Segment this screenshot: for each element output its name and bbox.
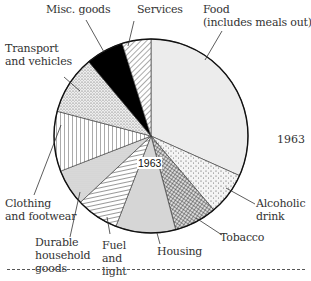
label-tobacco: Tobacco	[220, 231, 264, 244]
center-year-label: 1963	[137, 157, 162, 169]
dashed-divider	[7, 269, 305, 270]
label-housing: Housing	[157, 245, 202, 258]
label-food: Food (includes meals out)	[203, 3, 311, 29]
label-misc-goods: Misc. goods	[46, 3, 110, 16]
label-fuel: Fuel and light	[102, 239, 127, 278]
side-year-label: 1963	[277, 133, 305, 146]
label-services: Services	[137, 3, 183, 16]
label-clothing: Clothing and footwear	[5, 197, 76, 223]
label-alcohol: Alcoholic drink	[256, 197, 305, 223]
pie-slices	[54, 39, 248, 233]
label-transport: Transport and vehicles	[5, 42, 72, 68]
